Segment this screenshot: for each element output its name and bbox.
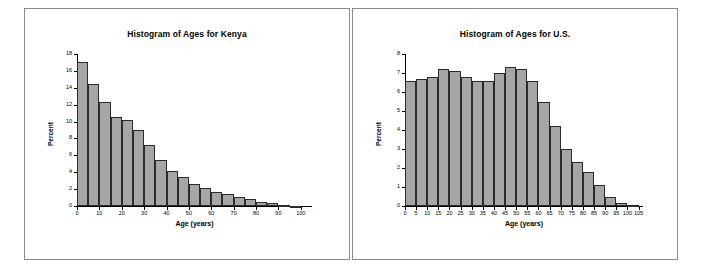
- panel-us: Histogram of Ages for U.S. 0123456780510…: [352, 8, 678, 260]
- y-axis-tick-label: 5: [384, 107, 400, 113]
- x-axis-tick-mark: [438, 207, 439, 210]
- x-axis-tick-label: 10: [91, 210, 107, 216]
- histogram-bar: [583, 172, 594, 206]
- y-axis-tick-mark: [74, 105, 77, 106]
- y-axis-tick-mark: [402, 73, 405, 74]
- x-axis-tick-label: 100: [293, 210, 309, 216]
- x-axis-tick-label: 20: [114, 210, 130, 216]
- histogram-bar: [256, 202, 267, 206]
- x-axis-tick-mark: [494, 207, 495, 210]
- x-axis-tick-mark: [405, 207, 406, 210]
- x-axis-line: [77, 206, 312, 207]
- histogram-bar: [278, 205, 289, 207]
- histogram-bar: [605, 197, 616, 207]
- histogram-bar: [461, 77, 472, 206]
- histogram-bar: [234, 197, 245, 206]
- x-axis-tick-mark: [538, 207, 539, 210]
- histogram-bar: [438, 69, 449, 206]
- y-axis-title: Percent: [47, 122, 54, 146]
- x-axis-tick-mark: [516, 207, 517, 210]
- histogram-bar: [572, 162, 583, 206]
- x-axis-tick-mark: [605, 207, 606, 210]
- x-axis-tick-mark: [616, 207, 617, 210]
- x-axis-tick-label: 50: [181, 210, 197, 216]
- histogram-bar: [77, 62, 88, 206]
- histogram-bar: [527, 81, 538, 206]
- histogram-bar: [594, 185, 605, 206]
- x-axis-tick-mark: [527, 207, 528, 210]
- y-axis-tick-label: 0: [56, 202, 72, 208]
- y-axis-tick-label: 10: [56, 118, 72, 124]
- y-axis-tick-mark: [74, 155, 77, 156]
- chart-title-kenya: Histogram of Ages for Kenya: [25, 29, 349, 39]
- x-axis-tick-mark: [278, 207, 279, 210]
- x-axis-tick-label: 105: [631, 210, 647, 216]
- figure-container: Histogram of Ages for Kenya 024681012141…: [0, 0, 701, 274]
- histogram-bar: [405, 81, 416, 206]
- y-axis-tick-mark: [402, 149, 405, 150]
- y-axis-tick-label: 14: [56, 84, 72, 90]
- y-axis-tick-label: 16: [56, 67, 72, 73]
- y-axis-tick-label: 18: [56, 50, 72, 56]
- x-axis-tick-label: 80: [248, 210, 264, 216]
- histogram-bar: [200, 188, 211, 206]
- x-axis-tick-mark: [583, 207, 584, 210]
- histogram-bar: [178, 177, 189, 206]
- x-axis-tick-label: 70: [226, 210, 242, 216]
- x-axis-title: Age (years): [405, 220, 643, 227]
- y-axis-tick-mark: [74, 71, 77, 72]
- histogram-bar: [245, 199, 256, 206]
- y-axis-tick-label: 8: [56, 134, 72, 140]
- x-axis-tick-mark: [189, 207, 190, 210]
- x-axis-tick-mark: [256, 207, 257, 210]
- x-axis-title: Age (years): [77, 220, 312, 227]
- histogram-bar: [538, 102, 549, 207]
- x-axis-tick-mark: [416, 207, 417, 210]
- panel-kenya: Histogram of Ages for Kenya 024681012141…: [24, 8, 350, 260]
- histogram-bar: [111, 117, 122, 206]
- x-axis-tick-mark: [77, 207, 78, 210]
- histogram-bar: [550, 126, 561, 206]
- histogram-bar: [155, 160, 166, 206]
- x-axis-tick-label: 90: [270, 210, 286, 216]
- histogram-bar: [483, 81, 494, 206]
- histogram-bar: [472, 81, 483, 206]
- y-axis-tick-mark: [74, 172, 77, 173]
- histogram-bar: [616, 203, 627, 206]
- x-axis-tick-mark: [550, 207, 551, 210]
- histogram-bar: [122, 120, 133, 206]
- histogram-bar: [133, 130, 144, 206]
- x-axis-tick-mark: [639, 207, 640, 210]
- x-axis-tick-mark: [427, 207, 428, 210]
- x-axis-tick-mark: [234, 207, 235, 210]
- x-axis-tick-mark: [561, 207, 562, 210]
- x-axis-tick-mark: [461, 207, 462, 210]
- histogram-bar: [222, 194, 233, 206]
- y-axis-tick-mark: [74, 138, 77, 139]
- histogram-bar: [516, 69, 527, 206]
- chart-title-us: Histogram of Ages for U.S.: [353, 29, 677, 39]
- histogram-bar: [416, 79, 427, 206]
- x-axis-tick-label: 40: [159, 210, 175, 216]
- x-axis-tick-label: 0: [69, 210, 85, 216]
- y-axis-tick-mark: [402, 111, 405, 112]
- x-axis-tick-mark: [211, 207, 212, 210]
- x-axis-tick-mark: [472, 207, 473, 210]
- x-axis-tick-mark: [505, 207, 506, 210]
- histogram-bar: [449, 71, 460, 206]
- histogram-bar: [290, 206, 301, 208]
- y-axis-tick-label: 3: [384, 145, 400, 151]
- histogram-bar: [494, 73, 505, 206]
- y-axis-tick-mark: [74, 189, 77, 190]
- y-axis-tick-label: 7: [384, 69, 400, 75]
- y-axis-tick-mark: [74, 122, 77, 123]
- histogram-bar: [88, 84, 99, 206]
- y-axis-tick-label: 2: [56, 185, 72, 191]
- y-axis-tick-mark: [402, 92, 405, 93]
- x-axis-tick-mark: [483, 207, 484, 210]
- y-axis-tick-mark: [74, 88, 77, 89]
- histogram-bar: [561, 149, 572, 206]
- x-axis-tick-label: 60: [203, 210, 219, 216]
- histogram-bar: [189, 184, 200, 206]
- x-axis-tick-mark: [301, 207, 302, 210]
